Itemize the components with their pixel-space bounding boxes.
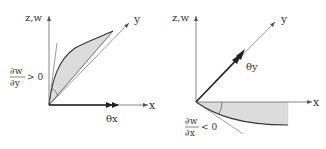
right-y-label: y [280,13,288,26]
left-double-arrow-icon [106,102,119,108]
left-theta-x-label: θx [106,113,118,124]
left-slope-relation: > 0 [27,72,43,82]
right-z-label: z,w [172,12,189,23]
right-x-label: x [313,96,320,109]
left-panel: z,w y x θx ∂w ∂y > 0 [10,12,156,124]
left-z-label: z,w [25,12,42,23]
left-x-label: x [149,99,156,112]
right-slope-denominator: ∂x [185,128,195,138]
right-theta-y-label: θy [246,61,258,72]
right-panel: z,w y x θy ∂w ∂x < 0 [172,12,320,138]
right-slope-relation: < 0 [201,122,217,132]
right-theta-y-vector [196,56,240,102]
left-slope-denominator: ∂y [10,78,21,88]
left-slope-numerator: ∂w [10,66,23,76]
diagram-canvas: z,w y x θx ∂w ∂y > 0 z,w y x θy ∂w ∂x < … [0,0,326,149]
right-slope-numerator: ∂w [185,116,198,126]
left-y-label: y [133,13,141,26]
